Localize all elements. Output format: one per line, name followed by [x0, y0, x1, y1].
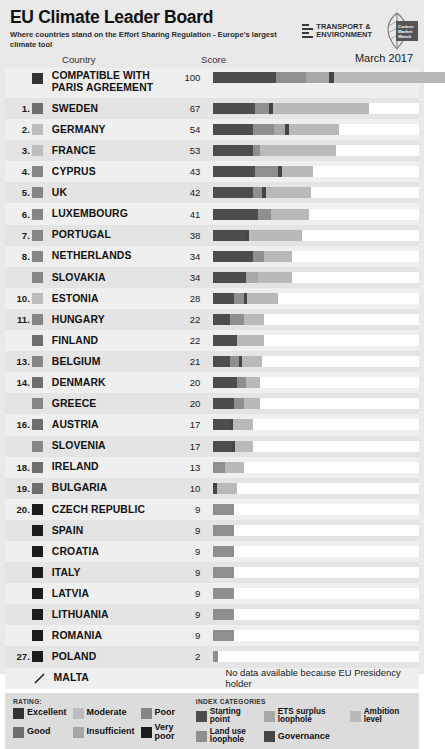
- table-row[interactable]: FINLAND22: [5, 330, 419, 351]
- legend-rating-swatch: [73, 708, 84, 719]
- score-bar-track: [213, 209, 419, 220]
- table-row[interactable]: 3.FRANCE53: [5, 140, 419, 161]
- table-row[interactable]: SLOVAKIA34: [5, 267, 419, 288]
- country-name: LUXEMBOURG: [52, 208, 172, 220]
- score-value: 17: [177, 419, 200, 430]
- legend-category-item: Land use loophole: [196, 728, 256, 745]
- table-row[interactable]: 13.BELGIUM21: [5, 351, 419, 372]
- rank-number: 6.: [5, 209, 32, 220]
- country-name: CYPRUS: [52, 166, 172, 178]
- score-bar-track: [213, 335, 419, 346]
- rating-swatch: [32, 630, 43, 641]
- bar-segment-ambition: [237, 335, 265, 346]
- bar-segment-starting-point: [213, 145, 252, 156]
- table-row[interactable]: 7.PORTUGAL38: [5, 225, 419, 246]
- table-row[interactable]: 5.UK42: [5, 182, 419, 203]
- table-row[interactable]: 19.BULGARIA10: [5, 478, 419, 499]
- score-value: 9: [177, 630, 200, 641]
- score-value: 9: [177, 525, 200, 536]
- bar-segment-land-use: [213, 630, 234, 641]
- rating-swatch: [32, 356, 43, 367]
- score-bar-track: [213, 166, 419, 177]
- table-row[interactable]: COMPATIBLE WITH PARIS AGREEMENT100: [5, 68, 419, 98]
- legend-rating-item: Moderate: [73, 708, 135, 719]
- bar-segment-ambition: [271, 209, 308, 220]
- rating-swatch: [32, 230, 43, 241]
- table-row[interactable]: 4.CYPRUS43: [5, 161, 419, 182]
- rating-swatch: [32, 209, 43, 220]
- table-row[interactable]: 1.SWEDEN67: [5, 98, 419, 119]
- legend-categories-title: INDEX CATEGORIES: [196, 698, 411, 705]
- legend-rating-swatch: [141, 727, 152, 738]
- table-row[interactable]: 20.CZECH REPUBLIC9: [5, 499, 419, 520]
- score-value: 42: [177, 187, 200, 198]
- legend-rating-label: Insufficient: [87, 727, 135, 737]
- bar-segment-land-use: [213, 609, 234, 620]
- legend-category-label: Starting point: [210, 708, 256, 725]
- rating-swatch: [32, 377, 43, 388]
- score-value: 22: [177, 314, 200, 325]
- legend-category-swatch: [196, 731, 207, 742]
- table-row[interactable]: GREECE20: [5, 393, 419, 414]
- country-name: FRANCE: [52, 145, 172, 157]
- bar-segment-ambition: [246, 377, 260, 388]
- table-row[interactable]: 8.NETHERLANDS34: [5, 246, 419, 267]
- rank-number: 14.: [5, 377, 32, 388]
- rank-number: [5, 68, 32, 72]
- score-bar-track: [213, 124, 419, 135]
- table-row[interactable]: ITALY9: [5, 562, 419, 583]
- bar-segment-starting-point: [213, 103, 255, 114]
- score-value: 67: [177, 103, 200, 114]
- score-bar: [213, 567, 234, 578]
- table-row[interactable]: ROMANIA9: [5, 625, 419, 646]
- table-row[interactable]: CROATIA9: [5, 541, 419, 562]
- table-row[interactable]: LITHUANIA9: [5, 604, 419, 625]
- table-row[interactable]: 18.IRELAND13: [5, 457, 419, 478]
- score-value: 34: [177, 251, 200, 262]
- bar-segment-ets-surplus: [274, 124, 286, 135]
- score-bar: [213, 103, 368, 114]
- table-row[interactable]: 11.HUNGARY22: [5, 309, 419, 330]
- bar-segment-starting-point: [213, 314, 229, 325]
- column-header-score: Score: [201, 54, 226, 65]
- score-bar-track: [213, 483, 419, 494]
- bar-segment-starting-point: [213, 356, 229, 367]
- rating-swatch: [32, 187, 43, 198]
- legend-rating-item: Insufficient: [73, 723, 135, 742]
- score-bar-track: [213, 630, 419, 641]
- bar-segment-land-use: [234, 398, 243, 409]
- table-row[interactable]: SLOVENIA17: [5, 436, 419, 457]
- bar-segment-land-use: [230, 356, 239, 367]
- rank-number: 13.: [5, 356, 32, 367]
- country-name: SPAIN: [52, 525, 172, 537]
- table-row[interactable]: MALTANo data available because EU Presid…: [5, 668, 419, 689]
- bar-segment-land-use: [213, 651, 218, 662]
- bar-segment-starting-point: [213, 272, 245, 283]
- table-row[interactable]: SPAIN9: [5, 520, 419, 541]
- table-row[interactable]: 10.ESTONIA28: [5, 288, 419, 309]
- rating-swatch: [32, 145, 43, 156]
- score-bar: [213, 335, 264, 346]
- bar-segment-land-use: [234, 293, 243, 304]
- score-bar: [213, 377, 259, 388]
- bar-segment-land-use: [253, 251, 265, 262]
- bar-segment-land-use: [253, 145, 260, 156]
- score-bar: [213, 504, 234, 515]
- bar-segment-ambition: [264, 251, 292, 262]
- country-name: COMPATIBLE WITH PARIS AGREEMENT: [52, 68, 172, 93]
- bar-segment-ambition: [260, 145, 337, 156]
- country-name: CROATIA: [52, 546, 172, 558]
- table-row[interactable]: LATVIA9: [5, 583, 419, 604]
- score-bar: [213, 166, 313, 177]
- score-bar-track: [213, 651, 419, 662]
- table-row[interactable]: 14.DENMARK20: [5, 372, 419, 393]
- rank-number: 16.: [5, 419, 32, 430]
- bar-segment-ets-surplus: [246, 272, 258, 283]
- rank-number: 20.: [5, 504, 32, 515]
- logo-group: TRANSPORT & ENVIRONMENT Carbon Market Wa…: [302, 11, 417, 51]
- table-row[interactable]: 2.GERMANY54: [5, 119, 419, 140]
- table-row[interactable]: 27.POLAND2: [5, 646, 419, 667]
- country-name: SLOVAKIA: [52, 272, 172, 284]
- table-row[interactable]: 16.AUSTRIA17: [5, 414, 419, 435]
- table-row[interactable]: 6.LUXEMBOURG41: [5, 203, 419, 224]
